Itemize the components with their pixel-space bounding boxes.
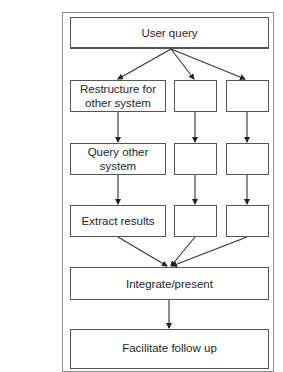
node-integrate: Integrate/present (70, 267, 269, 300)
node-mid-1 (174, 80, 217, 112)
node-right-2 (226, 143, 269, 175)
clipped-caption (0, 0, 283, 2)
node-label: Query other system (71, 145, 165, 173)
node-follow-up: Facilitate follow up (70, 329, 269, 369)
node-label: User query (141, 26, 197, 40)
node-label: Facilitate follow up (122, 341, 217, 355)
node-right-1 (226, 80, 269, 112)
node-mid-3 (174, 205, 217, 237)
node-restructure: Restructure for other system (70, 80, 166, 112)
node-extract: Extract results (70, 205, 166, 237)
diagram-frame (62, 12, 274, 372)
node-label: Integrate/present (126, 277, 213, 291)
node-mid-2 (174, 143, 217, 175)
node-query-other: Query other system (70, 143, 166, 175)
node-label: Extract results (82, 214, 155, 228)
node-label: Restructure for other system (71, 82, 165, 110)
node-right-3 (226, 205, 269, 237)
node-user-query: User query (70, 17, 269, 49)
